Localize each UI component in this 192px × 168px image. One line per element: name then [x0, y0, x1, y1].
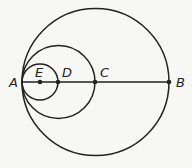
point-B — [167, 80, 172, 85]
diagram-canvas: A E D C B — [0, 0, 192, 168]
label-D: D — [62, 65, 72, 80]
label-C: C — [100, 65, 110, 80]
label-A: A — [8, 75, 18, 90]
point-E — [38, 80, 43, 85]
point-D — [56, 80, 61, 85]
label-E: E — [35, 65, 44, 80]
label-B: B — [176, 75, 185, 90]
geometry-diagram: A E D C B — [0, 0, 192, 168]
point-C — [93, 80, 98, 85]
